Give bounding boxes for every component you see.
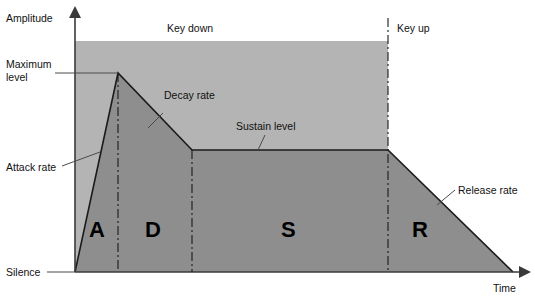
- key-down-label: Key down: [167, 22, 213, 34]
- stage-letter-attack: A: [89, 217, 105, 242]
- y-axis-label: Amplitude: [6, 12, 53, 24]
- x-axis-label: Time: [493, 282, 516, 294]
- maximum-level-label-line2: level: [6, 71, 28, 83]
- sustain-level-label: Sustain level: [236, 120, 296, 132]
- stage-letter-sustain: S: [281, 217, 296, 242]
- key-up-label: Key up: [397, 22, 430, 34]
- stage-letter-decay: D: [145, 217, 161, 242]
- x-axis-arrowhead: [519, 266, 531, 278]
- decay-rate-label: Decay rate: [164, 89, 215, 101]
- silence-label: Silence: [6, 266, 41, 278]
- maximum-level-label-line1: Maximum: [6, 58, 52, 70]
- stage-letter-release: R: [412, 217, 428, 242]
- release-rate-leader: [437, 190, 455, 205]
- adsr-envelope-diagram: Amplitude Time Maximum level Silence Att…: [0, 0, 535, 299]
- attack-rate-label: Attack rate: [6, 161, 56, 173]
- y-axis-arrowhead: [69, 6, 81, 18]
- release-rate-label: Release rate: [458, 184, 518, 196]
